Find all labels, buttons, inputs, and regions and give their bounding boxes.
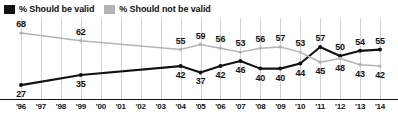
- data-point-marker: [218, 64, 222, 68]
- data-value-label: 48: [335, 63, 345, 73]
- data-point-marker: [259, 47, 262, 50]
- data-point-marker: [278, 67, 282, 71]
- chart-legend: % Should be valid % Should not be valid: [4, 2, 211, 16]
- data-value-label: 27: [16, 89, 26, 99]
- data-value-label: 45: [315, 66, 325, 76]
- data-value-label: 57: [275, 33, 285, 43]
- data-point-marker: [199, 43, 202, 46]
- data-point-marker: [219, 47, 222, 50]
- data-value-label: 54: [355, 37, 365, 47]
- data-value-label: 40: [255, 73, 265, 83]
- legend-swatch-icon: [4, 5, 15, 14]
- data-value-label: 42: [176, 70, 186, 80]
- x-axis-tick-label: '14: [375, 101, 385, 112]
- data-point-marker: [279, 45, 282, 48]
- x-axis-tick-label: '03: [155, 101, 165, 112]
- data-point-marker: [338, 57, 341, 60]
- data-value-label: 35: [76, 79, 86, 89]
- x-axis-tick-label: '08: [255, 101, 265, 112]
- data-value-label: 55: [375, 36, 385, 46]
- data-value-label: 53: [236, 38, 246, 48]
- chart-figure: % Should be valid % Should not be valid …: [0, 0, 398, 121]
- data-point-marker: [318, 45, 322, 49]
- x-axis-tick-label: '02: [136, 101, 146, 112]
- x-axis-tick-label: '05: [195, 101, 205, 112]
- legend-item-should-be-valid: % Should be valid: [4, 2, 94, 16]
- data-value-label: 68: [16, 19, 26, 29]
- data-value-label: 62: [76, 27, 86, 37]
- x-axis-tick-label: '13: [355, 101, 365, 112]
- data-point-marker: [318, 61, 321, 64]
- data-point-marker: [19, 83, 23, 87]
- data-point-marker: [79, 39, 82, 42]
- legend-item-label: % Should be valid: [19, 4, 94, 14]
- data-value-label: 56: [255, 34, 265, 44]
- legend-item-label: % Should not be valid: [119, 4, 210, 14]
- data-value-label: 42: [375, 70, 385, 80]
- x-axis-tick-label: '00: [96, 101, 106, 112]
- x-axis-tick-label: '06: [215, 101, 225, 112]
- x-axis-tick-label: '10: [295, 101, 305, 112]
- data-point-marker: [358, 63, 361, 66]
- x-axis-tick-label: '12: [335, 101, 345, 112]
- legend-swatch-icon: [104, 5, 115, 14]
- x-axis-tick-label: '09: [275, 101, 285, 112]
- legend-item-should-not-be-valid: % Should not be valid: [104, 2, 210, 16]
- data-value-label: 42: [216, 70, 226, 80]
- data-value-label: 57: [315, 33, 325, 43]
- data-value-label: 59: [196, 31, 206, 41]
- data-point-marker: [258, 67, 262, 71]
- data-point-marker: [299, 50, 302, 53]
- data-point-marker: [19, 31, 22, 34]
- data-point-marker: [378, 64, 381, 67]
- x-axis-tick-label: '04: [175, 101, 185, 112]
- data-value-label: 44: [295, 68, 305, 78]
- data-point-marker: [239, 50, 242, 53]
- x-axis-tick-label: '11: [315, 101, 325, 112]
- data-value-label: 43: [355, 69, 365, 79]
- data-point-marker: [179, 64, 183, 68]
- data-value-label: 50: [335, 42, 345, 52]
- data-point-marker: [238, 59, 242, 63]
- x-axis-tick-label: '96: [16, 101, 26, 112]
- data-point-marker: [179, 48, 182, 51]
- x-axis-labels: '96'97'98'99'00'01'02'03'04'05'06'07'08'…: [0, 101, 398, 115]
- data-value-label: 46: [236, 65, 246, 75]
- data-point-marker: [199, 70, 203, 74]
- data-point-marker: [358, 49, 362, 53]
- data-point-marker: [378, 48, 382, 52]
- data-value-label: 53: [295, 38, 305, 48]
- data-value-label: 37: [196, 76, 206, 86]
- data-value-label: 40: [275, 73, 285, 83]
- data-value-label: 56: [216, 34, 226, 44]
- x-axis-tick-label: '98: [56, 101, 66, 112]
- x-axis-tick-label: '07: [235, 101, 245, 112]
- data-point-marker: [79, 73, 83, 77]
- data-point-marker: [298, 62, 302, 66]
- x-axis-tick-label: '97: [36, 101, 46, 112]
- x-axis-tick-label: '01: [116, 101, 126, 112]
- data-value-label: 55: [176, 36, 186, 46]
- x-axis-tick-label: '99: [76, 101, 86, 112]
